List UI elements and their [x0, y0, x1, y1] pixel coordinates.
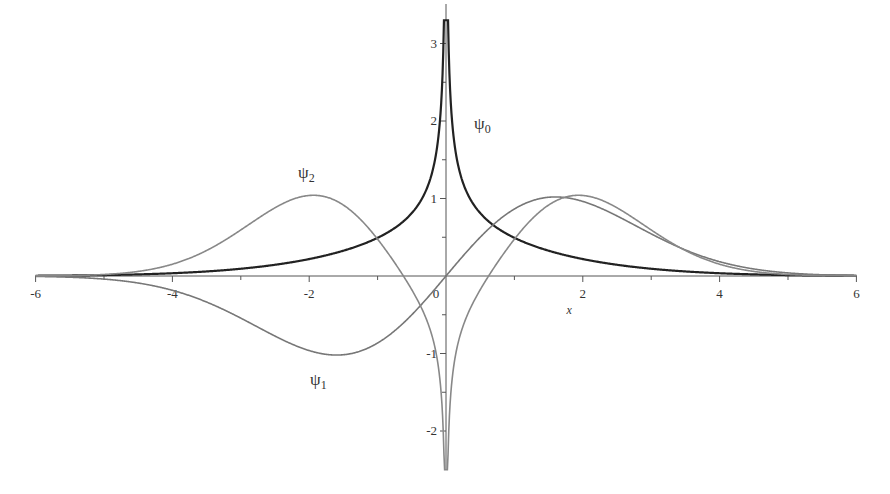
y-tick-label: 3 [431, 36, 438, 51]
y-tick-label: 2 [431, 113, 438, 128]
y-tick-label: -2 [426, 423, 437, 438]
x-tick-label: 2 [580, 286, 587, 301]
psi0-label: ψ0 [474, 114, 491, 136]
x-tick-label: -2 [304, 286, 315, 301]
psi2-label: ψ2 [298, 163, 315, 185]
y-tick-label: 1 [431, 191, 438, 206]
x-tick-label: 6 [853, 286, 860, 301]
labels: ψ0ψ1ψ2 [298, 114, 491, 392]
x-tick-label: 4 [716, 286, 723, 301]
axes: -6-4-22460-2-1123x [30, 4, 860, 470]
x-tick-label: -4 [167, 286, 178, 301]
x-tick-label: -6 [30, 286, 41, 301]
x-axis-title: x [565, 303, 572, 317]
psi1-label: ψ1 [310, 370, 327, 392]
chart: -6-4-22460-2-1123x ψ0ψ1ψ2 [0, 0, 890, 494]
